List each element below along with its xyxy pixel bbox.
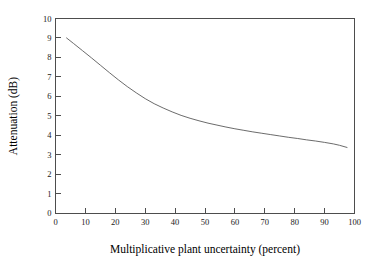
x-tick-label: 0 [53, 217, 57, 227]
y-axis-title: Attenuation (dB) [7, 77, 20, 155]
attenuation-vs-uncertainty-chart: 0102030405060708090100 012345678910 Mult… [0, 0, 385, 265]
x-tick-label: 40 [171, 217, 180, 227]
x-tick-label: 10 [81, 217, 90, 227]
x-tick-label: 80 [290, 217, 299, 227]
y-tick-label: 1 [47, 189, 51, 199]
plot-frame [56, 19, 355, 214]
x-tick-label: 90 [320, 217, 329, 227]
y-tick-label: 7 [47, 72, 51, 82]
x-axis-tick-labels: 0102030405060708090100 [53, 217, 361, 227]
y-tick-label: 5 [47, 111, 51, 121]
x-tick-label: 100 [348, 217, 361, 227]
y-tick-label: 9 [47, 33, 51, 43]
y-tick-label: 10 [43, 14, 52, 24]
y-axis-tick-labels: 012345678910 [43, 14, 52, 219]
x-tick-label: 50 [201, 217, 210, 227]
figure-container: 0102030405060708090100 012345678910 Mult… [0, 0, 385, 265]
x-axis-ticks [56, 208, 355, 213]
y-tick-label: 6 [47, 91, 51, 101]
x-tick-label: 30 [141, 217, 150, 227]
y-axis-ticks [56, 19, 61, 214]
x-axis-title: Multiplicative plant uncertainty (percen… [110, 243, 300, 256]
x-tick-label: 70 [261, 217, 270, 227]
y-tick-label: 3 [47, 150, 51, 160]
y-tick-label: 8 [47, 52, 51, 62]
x-tick-label: 60 [231, 217, 240, 227]
y-tick-label: 4 [47, 130, 52, 140]
y-tick-label: 0 [47, 208, 51, 218]
attenuation-curve [67, 38, 347, 148]
y-tick-label: 2 [47, 169, 51, 179]
x-tick-label: 20 [111, 217, 120, 227]
